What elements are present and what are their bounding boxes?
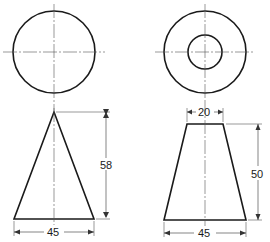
frustum-plan-view [155, 4, 255, 100]
dim-base-45: 45 [198, 227, 210, 239]
technical-drawing: 58 45 20 50 [0, 0, 270, 242]
arrowhead [103, 112, 109, 118]
arrowhead [14, 230, 20, 235]
arrowhead [164, 231, 170, 236]
cone-elevation-view: 58 45 [14, 108, 112, 238]
arrowhead [256, 124, 261, 130]
arrowhead [88, 230, 94, 235]
dim-base-45: 45 [47, 226, 59, 238]
dim-top-20: 20 [198, 106, 210, 118]
frustum-elevation-view: 20 50 45 [164, 100, 263, 239]
dim-height-58: 58 [100, 159, 112, 171]
cone-plan-view [3, 4, 105, 110]
arrowhead [218, 110, 223, 115]
arrowhead [187, 110, 192, 115]
arrowhead [256, 214, 261, 220]
arrowhead [240, 231, 246, 236]
dim-height-50: 50 [251, 168, 263, 180]
